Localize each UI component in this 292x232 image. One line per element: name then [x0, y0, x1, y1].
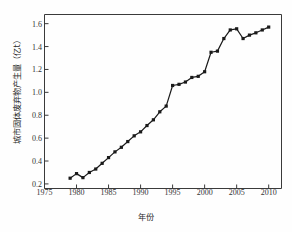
data-point-marker	[81, 176, 84, 179]
axes-lines	[45, 15, 282, 189]
data-point-marker	[75, 172, 78, 175]
data-point-marker	[133, 134, 136, 137]
axis-ticks	[45, 24, 269, 189]
y-tick-label: 1.6	[18, 19, 42, 28]
data-point-marker	[88, 171, 91, 174]
data-point-marker	[254, 31, 257, 34]
y-tick-label: 0.6	[18, 134, 42, 143]
data-point-marker	[113, 150, 116, 153]
data-point-marker	[120, 146, 123, 149]
data-point-marker	[241, 37, 244, 40]
chart-figure: 城市固体废弃物产生量（亿t） 年份 0.20.40.60.81.01.21.41…	[0, 0, 292, 232]
data-point-marker	[145, 124, 148, 127]
data-point-marker	[152, 118, 155, 121]
data-point-marker	[197, 75, 200, 78]
data-point-marker	[101, 162, 104, 165]
x-tick-label: 2010	[249, 188, 289, 197]
y-tick-label: 1.4	[18, 42, 42, 51]
y-tick-label: 1.2	[18, 65, 42, 74]
data-point-marker	[248, 34, 251, 37]
data-point-marker	[184, 80, 187, 83]
y-tick-label: 0.8	[18, 111, 42, 120]
data-point-marker	[126, 140, 129, 143]
data-point-marker	[222, 37, 225, 40]
data-series-line	[70, 27, 269, 178]
data-point-marker	[171, 84, 174, 87]
data-point-marker	[107, 156, 110, 159]
data-point-marker	[69, 177, 72, 180]
data-point-markers	[69, 25, 271, 179]
y-tick-label: 0.4	[18, 157, 42, 166]
x-axis-tick-labels: 19751980198519901995200020052010	[0, 188, 292, 202]
data-point-marker	[190, 76, 193, 79]
data-point-marker	[229, 28, 232, 31]
data-point-marker	[209, 51, 212, 54]
data-point-marker	[216, 50, 219, 53]
data-point-marker	[94, 167, 97, 170]
data-point-marker	[267, 25, 270, 28]
data-point-marker	[235, 27, 238, 30]
data-point-marker	[203, 70, 206, 73]
y-tick-label: 1.0	[18, 88, 42, 97]
data-point-marker	[261, 28, 264, 31]
data-point-marker	[177, 83, 180, 86]
data-point-marker	[165, 104, 168, 107]
x-axis-label: 年份	[0, 210, 292, 222]
data-point-marker	[158, 110, 161, 113]
data-point-marker	[139, 130, 142, 133]
